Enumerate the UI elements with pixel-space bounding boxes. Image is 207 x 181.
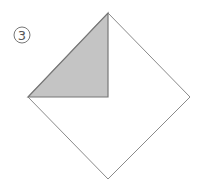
- shaded-triangle: [28, 13, 108, 97]
- origami-diagram: 3: [0, 0, 207, 181]
- step-number-badge: 3: [14, 27, 30, 43]
- step-number: 3: [18, 28, 26, 43]
